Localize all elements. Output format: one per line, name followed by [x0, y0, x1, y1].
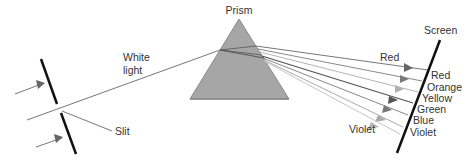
spectrum-label-violet: Violet	[410, 126, 436, 138]
prism-dispersion-diagram: Prism Screen White light Slit Red Violet…	[0, 0, 467, 163]
white-light-label-line2: light	[123, 64, 142, 76]
white-light-label-line1: White	[123, 51, 150, 63]
violet-ray-label: Violet	[349, 123, 375, 135]
red-ray-label: Red	[380, 51, 399, 63]
incoming-light-arrows	[15, 80, 63, 147]
screen-label: Screen	[424, 24, 457, 36]
slit-leader-line	[62, 111, 112, 131]
spectrum-label-blue: Blue	[413, 114, 434, 126]
arrow-head-icon	[36, 80, 45, 89]
prism-triangle	[190, 19, 289, 99]
prism-label: Prism	[226, 4, 253, 16]
spectrum-label-red: Red	[431, 69, 450, 81]
slit-label: Slit	[115, 125, 130, 137]
